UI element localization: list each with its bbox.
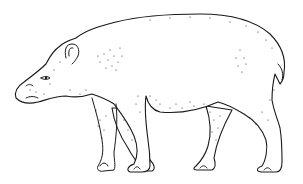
tapir-illustration <box>0 0 303 184</box>
tapir-body <box>15 14 284 172</box>
illustration-canvas <box>0 0 303 184</box>
far-hind-leg <box>194 106 232 170</box>
pupil <box>45 77 47 79</box>
hoof-front-far <box>100 163 108 166</box>
